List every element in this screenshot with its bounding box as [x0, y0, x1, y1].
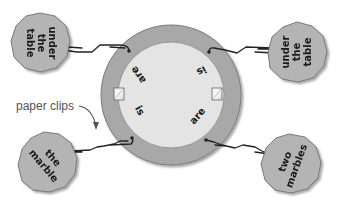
right-slot — [212, 88, 222, 100]
paper-clips-annotation: paper clips — [16, 99, 99, 130]
annotation-label: paper clips — [16, 99, 74, 113]
tag-top-left-line-1: under — [47, 26, 58, 59]
tag-top-left: under the table — [11, 13, 70, 72]
tag-top-right-line-1: under — [280, 35, 291, 68]
paper-clip-bottom-left — [66, 138, 133, 155]
tag-top-right: under the table — [268, 22, 327, 82]
tag-top-right-line-3: table — [302, 37, 313, 66]
tag-top-right-line-2: the — [291, 42, 302, 61]
inner-disc — [118, 42, 224, 148]
tag-top-left-line-2: the — [36, 34, 47, 53]
word-ring-diagram: are is is are paper clips under the tabl… — [0, 0, 337, 203]
tag-top-left-line-3: table — [25, 29, 36, 58]
tag-bottom-right: two marbles — [261, 134, 321, 193]
left-slot — [114, 88, 124, 100]
tag-bottom-left: the marble — [18, 132, 77, 192]
